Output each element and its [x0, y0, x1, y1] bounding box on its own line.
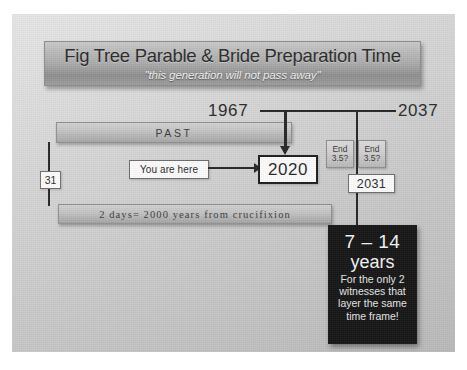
timeline-tick-2031-lower — [356, 191, 358, 225]
callout-unit: years — [328, 252, 417, 272]
timeline-rule-top — [260, 110, 396, 112]
arrow-shaft-to-2020 — [284, 112, 287, 148]
year-label-1967: 1967 — [208, 102, 248, 119]
end-box-second-line2: 3.5? — [364, 154, 381, 164]
end-box-first-line2: 3.5? — [332, 154, 349, 164]
end-box-first: End 3.5? — [326, 140, 354, 168]
you-are-here-box: You are here — [129, 160, 209, 179]
two-days-bar: 2 days= 2000 years from crucifixion — [58, 204, 332, 224]
two-days-label: 2 days= 2000 years from crucifixion — [99, 209, 291, 220]
slide-subtitle: "this generation will not pass away" — [45, 68, 420, 82]
current-year-box: 2020 — [258, 155, 318, 184]
arrow-head-to-2020 — [280, 146, 290, 155]
marker-box-31: 31 — [40, 171, 61, 189]
end-box-second: End 3.5? — [358, 140, 386, 168]
slide-title-plate: Fig Tree Parable & Bride Preparation Tim… — [44, 41, 421, 86]
arrow-shaft-here-to-2020 — [208, 167, 256, 169]
presentation-slide: Fig Tree Parable & Bride Preparation Tim… — [12, 14, 455, 352]
callout-range: 7 – 14 — [328, 225, 417, 252]
callout-box: 7 – 14 years For the only 2 witnesses th… — [328, 225, 417, 344]
year-label-2037: 2037 — [398, 102, 438, 119]
slide-title: Fig Tree Parable & Bride Preparation Tim… — [45, 42, 420, 68]
past-bar: PAST — [56, 122, 292, 143]
past-label: PAST — [155, 127, 192, 139]
callout-note: For the only 2 witnesses that layer the … — [328, 272, 417, 322]
year-box-2031: 2031 — [348, 174, 395, 193]
